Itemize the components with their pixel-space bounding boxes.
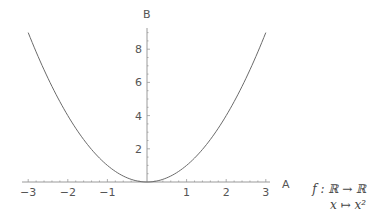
- x-tick-label: 1: [183, 186, 190, 199]
- function-plot: −3−2−11232468 A B f : ℝ → ℝ x ↦ x²: [0, 0, 383, 220]
- x-tick-label: −3: [20, 186, 36, 199]
- annotation-mapping-domain: f : ℝ → ℝ: [311, 182, 367, 196]
- x-tick-label: −1: [99, 186, 115, 199]
- x-axis-label: A: [282, 178, 290, 191]
- tick-labels: −3−2−11232468: [20, 43, 269, 199]
- y-tick-label: 6: [135, 76, 142, 89]
- y-tick-label: 4: [135, 110, 142, 123]
- y-tick-label: 8: [135, 43, 142, 56]
- x-tick-label: 3: [262, 186, 269, 199]
- x-tick-label: 2: [223, 186, 230, 199]
- x-tick-label: −2: [60, 186, 76, 199]
- annotation-mapping-rule: x ↦ x²: [330, 198, 366, 212]
- y-tick-label: 2: [135, 143, 142, 156]
- y-axis-label: B: [143, 8, 151, 21]
